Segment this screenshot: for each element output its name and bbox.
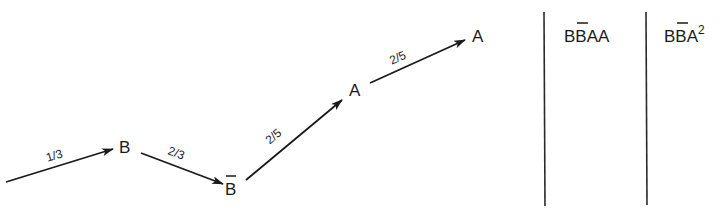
edge-bbar-to-a: 2/5 [246,100,342,180]
edge-a-to-a: 2/5 [370,40,465,83]
column-divider-1 [544,12,545,206]
edge-b-to-bbar: 2/3 [141,144,223,184]
svg-text:BBA2: BBA2 [664,23,705,46]
column-divider-2 [646,12,647,205]
edge-label-2: 2/3 [166,144,187,163]
edge-label-1: 1/3 [44,146,64,164]
edge-label-3: 2/5 [263,125,285,147]
node-b: B [119,138,130,157]
column-1-sequence: BBAA [564,23,610,46]
column-2-sequence: BBA2 [664,23,705,46]
svg-text:BBAA: BBAA [564,27,610,46]
edge-start-to-b: 1/3 [6,146,113,182]
node-a-2: A [472,27,484,46]
node-b-bar: B [225,176,236,199]
probability-path-diagram: 1/3 B 2/3 B 2/5 A 2/5 A BBAA BBA2 [0,0,723,216]
node-a-1: A [349,81,361,100]
edge-label-4: 2/5 [387,48,408,68]
svg-text:B: B [225,180,236,199]
